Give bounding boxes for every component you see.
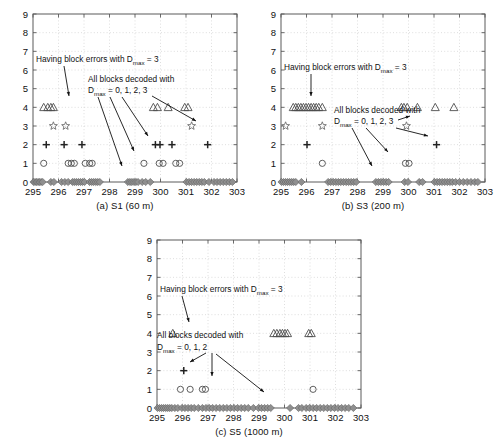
svg-text:All blocks decoded with: All blocks decoded with <box>88 74 175 84</box>
svg-text:2: 2 <box>271 139 276 150</box>
svg-text:Dmax = 0, 1, 2: Dmax = 0, 1, 2 <box>157 342 208 354</box>
svg-text:7: 7 <box>23 46 28 57</box>
svg-text:300: 300 <box>401 186 417 197</box>
svg-text:301: 301 <box>302 412 318 423</box>
svg-text:0: 0 <box>23 177 28 188</box>
panel-a: 2952962972982993003013023030123456789Hav… <box>0 0 250 220</box>
svg-text:4: 4 <box>147 328 152 339</box>
svg-text:Having block errors with Dmax: Having block errors with Dmax = 3 <box>36 54 159 66</box>
svg-text:1: 1 <box>271 158 276 169</box>
svg-text:7: 7 <box>147 272 152 283</box>
svg-text:297: 297 <box>76 186 92 197</box>
panel-b-caption: (b) S3 (200 m) <box>248 200 498 211</box>
svg-text:301: 301 <box>426 186 442 197</box>
svg-text:302: 302 <box>204 186 220 197</box>
svg-text:9: 9 <box>23 9 28 20</box>
svg-text:6: 6 <box>23 65 28 76</box>
svg-text:0: 0 <box>147 403 152 414</box>
svg-text:5: 5 <box>271 83 276 94</box>
panel-b: 2952962972982993003013023030123456789Hav… <box>248 0 498 220</box>
svg-text:302: 302 <box>328 412 344 423</box>
svg-text:3: 3 <box>147 347 152 358</box>
svg-text:9: 9 <box>147 235 152 246</box>
svg-text:1: 1 <box>147 384 152 395</box>
svg-text:298: 298 <box>102 186 118 197</box>
svg-text:301: 301 <box>178 186 194 197</box>
svg-text:All blocks decoded with: All blocks decoded with <box>334 105 421 115</box>
svg-text:300: 300 <box>153 186 169 197</box>
svg-text:297: 297 <box>324 186 340 197</box>
svg-text:5: 5 <box>147 309 152 320</box>
svg-text:All blocks decoded with: All blocks decoded with <box>157 330 244 340</box>
svg-text:2: 2 <box>23 139 28 150</box>
svg-text:296: 296 <box>175 412 191 423</box>
svg-text:299: 299 <box>375 186 391 197</box>
svg-text:296: 296 <box>51 186 67 197</box>
svg-text:297: 297 <box>200 412 216 423</box>
panel-c: 2952962972982993003013023030123456789Hav… <box>124 226 374 448</box>
panel-b-plot: 2952962972982993003013023030123456789Hav… <box>248 0 498 200</box>
svg-text:3: 3 <box>23 121 28 132</box>
svg-text:9: 9 <box>271 9 276 20</box>
svg-text:4: 4 <box>23 102 28 113</box>
svg-text:3: 3 <box>271 121 276 132</box>
svg-text:303: 303 <box>229 186 245 197</box>
svg-text:Having block errors with Dmax: Having block errors with Dmax = 3 <box>284 62 407 74</box>
svg-text:1: 1 <box>23 158 28 169</box>
svg-text:0: 0 <box>271 177 276 188</box>
svg-text:6: 6 <box>147 291 152 302</box>
svg-text:4: 4 <box>271 102 276 113</box>
svg-text:300: 300 <box>277 412 293 423</box>
svg-text:302: 302 <box>452 186 468 197</box>
svg-text:299: 299 <box>251 412 267 423</box>
svg-text:303: 303 <box>353 412 369 423</box>
panel-c-caption: (c) S5 (1000 m) <box>124 426 374 437</box>
svg-text:5: 5 <box>23 83 28 94</box>
svg-text:298: 298 <box>226 412 242 423</box>
svg-text:Dmax = 0, 1, 2, 3: Dmax = 0, 1, 2, 3 <box>334 116 394 128</box>
svg-text:299: 299 <box>127 186 143 197</box>
svg-text:303: 303 <box>477 186 493 197</box>
svg-text:2: 2 <box>147 365 152 376</box>
svg-text:Dmax = 0, 1, 2, 3: Dmax = 0, 1, 2, 3 <box>88 85 148 97</box>
svg-text:296: 296 <box>299 186 315 197</box>
svg-text:8: 8 <box>147 253 152 264</box>
svg-text:298: 298 <box>350 186 366 197</box>
figure-container: 2952962972982993003013023030123456789Hav… <box>0 0 498 448</box>
panel-a-caption: (a) S1 (60 m) <box>0 200 250 211</box>
svg-text:7: 7 <box>271 46 276 57</box>
svg-text:Having block errors with Dmax: Having block errors with Dmax = 3 <box>160 284 283 296</box>
panel-c-plot: 2952962972982993003013023030123456789Hav… <box>124 226 374 426</box>
svg-text:8: 8 <box>271 27 276 38</box>
svg-text:6: 6 <box>271 65 276 76</box>
svg-text:8: 8 <box>23 27 28 38</box>
panel-a-plot: 2952962972982993003013023030123456789Hav… <box>0 0 250 200</box>
